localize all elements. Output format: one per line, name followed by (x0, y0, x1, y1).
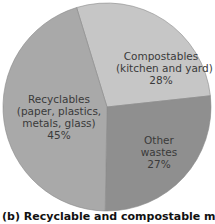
recyclables-subtitle-2: metals, glass) (14, 117, 104, 129)
compostables-subtitle: (kitchen and yard) (116, 62, 206, 74)
slice-label-compostables: Compostables (kitchen and yard) 28% (116, 50, 206, 86)
compostables-title: Compostables (116, 50, 206, 62)
figure-caption: (b) Recyclable and compostable materials (2, 210, 215, 223)
slice-label-other-wastes: Other wastes 27% (124, 134, 194, 170)
other-title: Other (124, 134, 194, 146)
compostables-percent: 28% (116, 74, 206, 86)
slice-label-recyclables: Recyclables (paper, plastics, metals, gl… (14, 93, 104, 141)
other-percent: 27% (124, 158, 194, 170)
other-subtitle: wastes (124, 146, 194, 158)
recyclables-subtitle-1: (paper, plastics, (14, 105, 104, 117)
recyclables-percent: 45% (14, 129, 104, 141)
recyclables-title: Recyclables (14, 93, 104, 105)
